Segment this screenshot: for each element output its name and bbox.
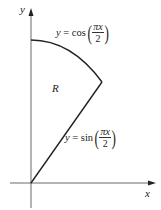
cos-curve — [31, 40, 102, 82]
sin-eq-sign: = — [72, 133, 78, 144]
x-axis-label: x — [145, 188, 150, 199]
cos-lhs: y — [56, 28, 61, 39]
y-axis-arrow-icon — [29, 8, 34, 16]
sin-lhs: y — [65, 133, 70, 144]
right-paren: ) — [104, 22, 108, 44]
cos-equation: y = cos(πx2) — [56, 22, 110, 44]
region-label: R — [52, 83, 59, 94]
sin-numerator: πx — [99, 127, 110, 138]
cos-fraction: πx2 — [92, 22, 103, 44]
cos-numerator: πx — [92, 22, 103, 33]
cos-func: cos — [72, 28, 86, 39]
right-paren: ) — [111, 127, 115, 149]
y-axis-label: y — [20, 4, 25, 15]
left-paren: ( — [95, 127, 99, 149]
sin-equation: y = sin(πx2) — [65, 127, 117, 149]
sin-denominator: 2 — [103, 138, 108, 149]
sin-fraction: πx2 — [99, 127, 110, 149]
cos-denominator: 2 — [95, 33, 100, 44]
left-paren: ( — [87, 22, 91, 44]
cos-eq-sign: = — [63, 28, 69, 39]
sin-func: sin — [81, 133, 93, 144]
x-axis-arrow-icon — [148, 181, 156, 186]
